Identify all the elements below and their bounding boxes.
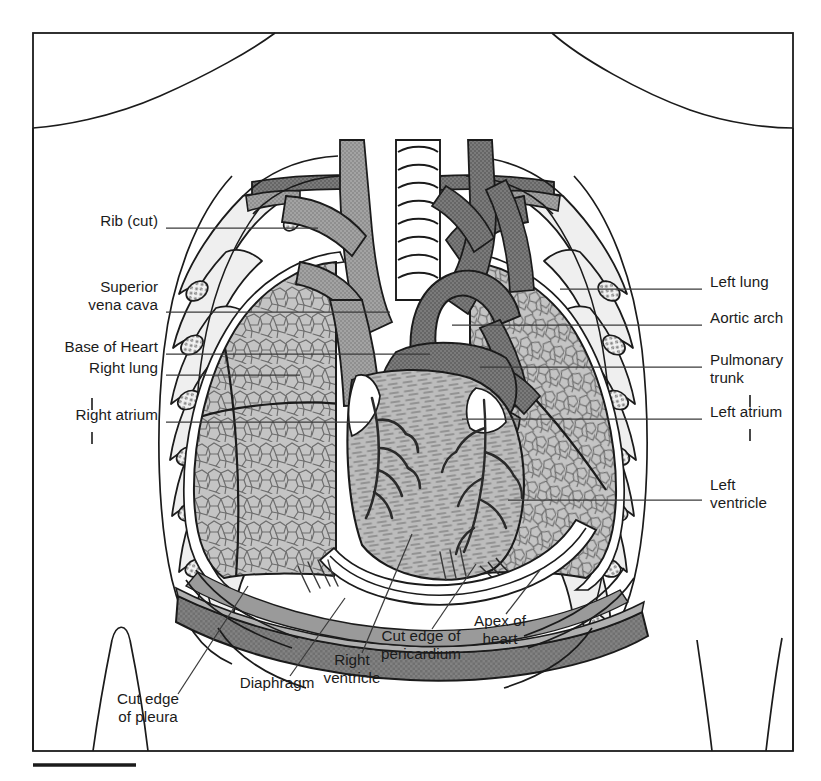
label-apex-of-heart: Apex ofheart [450, 612, 550, 647]
label-cut-edge-of-pleura: Cut edgeof pleura [88, 690, 208, 725]
thorax-illustration [0, 0, 821, 781]
label-left-ventricle: Leftventricle [710, 476, 810, 511]
label-superior-vena-cava: Superiorvena cava [28, 278, 158, 313]
trachea [396, 140, 440, 300]
heart [347, 343, 523, 582]
label-base-of-heart: Base of Heart [18, 338, 158, 356]
label-left-lung: Left lung [710, 273, 815, 291]
figure-canvas: Rib (cut) Superiorvena cava Base of Hear… [0, 0, 821, 781]
label-aortic-arch: Aortic arch [710, 309, 820, 327]
label-pulmonary-trunk: Pulmonarytrunk [710, 351, 815, 386]
label-left-atrium: Left atrium [710, 403, 815, 421]
label-right-lung: Right lung [38, 359, 158, 377]
label-right-atrium: Right atrium [28, 406, 158, 424]
label-rib-cut: Rib (cut) [38, 212, 158, 230]
